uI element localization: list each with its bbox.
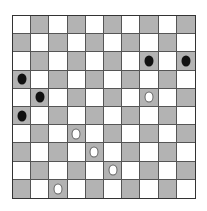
board-square[interactable]: [49, 162, 67, 180]
board-square[interactable]: [104, 89, 122, 107]
board-square[interactable]: [86, 34, 104, 52]
board-square[interactable]: [177, 52, 195, 70]
board-square[interactable]: [104, 34, 122, 52]
board-square[interactable]: [31, 34, 49, 52]
white-checker-piece[interactable]: [144, 92, 153, 103]
board-square[interactable]: [159, 89, 177, 107]
board-square[interactable]: [177, 71, 195, 89]
board-square[interactable]: [177, 89, 195, 107]
board-square[interactable]: [122, 107, 140, 125]
board-square[interactable]: [86, 107, 104, 125]
board-square[interactable]: [104, 107, 122, 125]
board-square[interactable]: [104, 71, 122, 89]
board-square[interactable]: [122, 180, 140, 198]
board-square[interactable]: [13, 143, 31, 161]
board-square[interactable]: [49, 143, 67, 161]
board-square[interactable]: [177, 34, 195, 52]
board-square[interactable]: [68, 34, 86, 52]
board-square[interactable]: [140, 52, 158, 70]
board-square[interactable]: [159, 52, 177, 70]
board-square[interactable]: [86, 71, 104, 89]
board-square[interactable]: [13, 89, 31, 107]
board-square[interactable]: [122, 52, 140, 70]
board-square[interactable]: [122, 162, 140, 180]
board-square[interactable]: [49, 125, 67, 143]
board-square[interactable]: [177, 143, 195, 161]
board-square[interactable]: [159, 34, 177, 52]
board-square[interactable]: [177, 162, 195, 180]
board-square[interactable]: [140, 16, 158, 34]
board-square[interactable]: [13, 107, 31, 125]
board-square[interactable]: [13, 71, 31, 89]
board-square[interactable]: [31, 180, 49, 198]
board-square[interactable]: [68, 89, 86, 107]
board-square[interactable]: [31, 162, 49, 180]
black-checker-piece[interactable]: [181, 55, 190, 66]
board-square[interactable]: [49, 34, 67, 52]
board-square[interactable]: [122, 34, 140, 52]
board-square[interactable]: [140, 89, 158, 107]
board-square[interactable]: [159, 125, 177, 143]
board-square[interactable]: [68, 52, 86, 70]
board-square[interactable]: [122, 89, 140, 107]
board-square[interactable]: [140, 125, 158, 143]
board-square[interactable]: [86, 125, 104, 143]
board-square[interactable]: [140, 34, 158, 52]
board-square[interactable]: [159, 180, 177, 198]
black-checker-piece[interactable]: [144, 55, 153, 66]
board-square[interactable]: [159, 16, 177, 34]
board-square[interactable]: [49, 16, 67, 34]
board-square[interactable]: [31, 89, 49, 107]
board-square[interactable]: [140, 107, 158, 125]
board-square[interactable]: [159, 162, 177, 180]
board-square[interactable]: [159, 107, 177, 125]
board-square[interactable]: [104, 16, 122, 34]
board-square[interactable]: [68, 143, 86, 161]
board-square[interactable]: [122, 16, 140, 34]
board-square[interactable]: [159, 71, 177, 89]
board-square[interactable]: [86, 180, 104, 198]
board-square[interactable]: [159, 143, 177, 161]
board-square[interactable]: [86, 89, 104, 107]
white-checker-piece[interactable]: [72, 128, 81, 139]
board-square[interactable]: [104, 162, 122, 180]
white-checker-piece[interactable]: [53, 183, 62, 194]
board-square[interactable]: [13, 52, 31, 70]
black-checker-piece[interactable]: [17, 110, 26, 121]
board-square[interactable]: [49, 89, 67, 107]
white-checker-piece[interactable]: [108, 165, 117, 176]
board-square[interactable]: [86, 143, 104, 161]
board-square[interactable]: [68, 125, 86, 143]
board-square[interactable]: [177, 125, 195, 143]
board-square[interactable]: [104, 125, 122, 143]
board-square[interactable]: [31, 16, 49, 34]
board-square[interactable]: [122, 71, 140, 89]
board-square[interactable]: [31, 125, 49, 143]
board-square[interactable]: [31, 143, 49, 161]
board-square[interactable]: [31, 52, 49, 70]
board-square[interactable]: [104, 143, 122, 161]
board-square[interactable]: [68, 71, 86, 89]
board-square[interactable]: [68, 107, 86, 125]
board-square[interactable]: [122, 143, 140, 161]
board-square[interactable]: [177, 180, 195, 198]
board-square[interactable]: [49, 107, 67, 125]
black-checker-piece[interactable]: [17, 74, 26, 85]
board-square[interactable]: [104, 180, 122, 198]
board-square[interactable]: [13, 125, 31, 143]
board-square[interactable]: [177, 107, 195, 125]
white-checker-piece[interactable]: [90, 146, 99, 157]
board-square[interactable]: [49, 71, 67, 89]
board-square[interactable]: [68, 180, 86, 198]
board-square[interactable]: [86, 52, 104, 70]
board-square[interactable]: [177, 16, 195, 34]
black-checker-piece[interactable]: [35, 92, 44, 103]
board-square[interactable]: [31, 107, 49, 125]
board-square[interactable]: [86, 16, 104, 34]
board-square[interactable]: [13, 34, 31, 52]
board-square[interactable]: [49, 180, 67, 198]
board-square[interactable]: [104, 52, 122, 70]
board-square[interactable]: [140, 143, 158, 161]
board-square[interactable]: [140, 162, 158, 180]
board-square[interactable]: [49, 52, 67, 70]
